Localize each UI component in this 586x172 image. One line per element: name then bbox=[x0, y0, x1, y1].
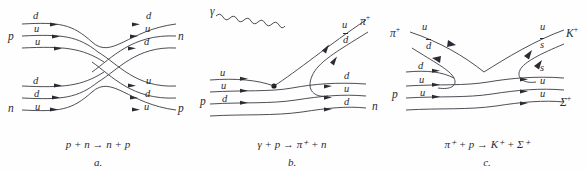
arrowhead-a-9 bbox=[54, 84, 62, 88]
particle-label-n-out-b: n bbox=[372, 101, 378, 113]
panel-a-letter: a. bbox=[0, 156, 196, 168]
particle-label-p-in-c: p bbox=[392, 89, 398, 101]
quark-line-a-top-3 bbox=[22, 47, 104, 62]
arrowhead-a-2 bbox=[52, 34, 60, 38]
particle-label-p-in: p bbox=[8, 31, 14, 43]
quark-label-a-br-3: u bbox=[144, 102, 149, 113]
sigma-charge-c: + bbox=[567, 94, 571, 103]
particle-label-p-in-b: p bbox=[200, 96, 206, 108]
quark-label-a-bl-1: d bbox=[33, 76, 38, 87]
arrowhead-b-2 bbox=[240, 89, 248, 93]
panel-b-caption: γ + p → π⁺ + n bbox=[196, 138, 388, 151]
quark-label-a-tl-3: u bbox=[35, 37, 40, 48]
quark-line-b-p-4 bbox=[210, 107, 366, 116]
k-charge-c: + bbox=[574, 25, 578, 34]
particle-label-gamma: γ bbox=[210, 6, 215, 18]
quark-label-c-tl-2: d bbox=[426, 39, 431, 51]
quark-line-a-out-5 bbox=[98, 52, 176, 86]
quark-label-c-br-2: u bbox=[540, 76, 545, 87]
quark-label-c-bl-3: u bbox=[420, 88, 425, 99]
particle-label-n-out: n bbox=[178, 31, 184, 43]
quark-label-c-tl-1: u bbox=[422, 22, 427, 33]
particle-label-sigma-out-c: Σ+ bbox=[560, 95, 571, 108]
pi-charge-c: + bbox=[396, 25, 400, 34]
panel-b: γ p n π+ u d u u d d u d γ + p → π⁺ + n … bbox=[196, 0, 388, 172]
quark-line-a-out-2 bbox=[92, 36, 176, 72]
quark-label-b-br-1: d bbox=[344, 71, 349, 82]
quark-label-b-br-3: d bbox=[344, 97, 349, 108]
panel-c-caption: π⁺ + p → K⁺ + Σ⁺ bbox=[388, 138, 586, 151]
quark-label-a-bl-2: d bbox=[34, 89, 39, 100]
quark-label-b-br-2: u bbox=[344, 84, 349, 95]
arrowhead-a-11 bbox=[130, 96, 138, 100]
arrowhead-a-5 bbox=[130, 34, 138, 38]
panel-b-letter: b. bbox=[196, 156, 388, 168]
arrowhead-a-3 bbox=[54, 46, 62, 50]
arrowhead-b-7 bbox=[322, 45, 329, 54]
panel-a-diagram bbox=[0, 0, 196, 134]
particle-label-k-out-c: K+ bbox=[566, 26, 578, 39]
arrowhead-c-4 bbox=[432, 83, 440, 87]
quark-label-b-tr-2: d bbox=[343, 33, 348, 45]
quark-label-a-br-1: u bbox=[146, 76, 151, 87]
quark-label-b-bl-2: u bbox=[221, 81, 226, 92]
arrowhead-a-7 bbox=[50, 107, 58, 111]
sigma-symbol-c: Σ bbox=[560, 96, 567, 108]
quark-label-b-bl-3: d bbox=[222, 94, 227, 105]
quark-label-b-bl-1: u bbox=[220, 68, 225, 79]
arrowhead-a-6 bbox=[128, 47, 136, 51]
quark-line-a-out-4 bbox=[92, 62, 176, 98]
panel-a: p n n p d u u d u d d d u u d u p + n → … bbox=[0, 0, 196, 172]
quark-label-a-tl-1: d bbox=[33, 11, 38, 22]
quark-flow-figure: p n n p d u u d u d d d u u d u p + n → … bbox=[0, 0, 586, 172]
quark-label-a-tr-2: u bbox=[145, 24, 150, 35]
photon-wavy-line bbox=[216, 14, 285, 28]
quark-label-a-tr-3: d bbox=[144, 37, 149, 48]
quark-label-c-bl-1: d bbox=[418, 61, 423, 72]
quark-label-c-br-3: u bbox=[540, 89, 545, 100]
quark-line-b-pi-dbar bbox=[310, 32, 368, 96]
arrowhead-c-1 bbox=[447, 40, 456, 47]
quark-label-a-tl-2: u bbox=[34, 24, 39, 35]
arrowhead-b-3 bbox=[240, 101, 248, 105]
quark-label-c-tr-1: u bbox=[540, 22, 545, 33]
arrowhead-c-2 bbox=[432, 56, 441, 63]
arrowhead-b-4 bbox=[324, 84, 332, 88]
arrowhead-a-1 bbox=[50, 23, 58, 27]
arrowhead-a-12 bbox=[128, 83, 136, 87]
panel-a-caption: p + n → n + p bbox=[0, 138, 196, 150]
quark-line-a-out-3 bbox=[98, 48, 176, 82]
particle-label-pi-in-c: π+ bbox=[390, 26, 400, 39]
quark-label-c-tr-2: s bbox=[540, 38, 544, 50]
quark-line-b-p-3 bbox=[210, 95, 366, 104]
arrowhead-c-5 bbox=[432, 95, 440, 99]
quark-line-b-p-2 bbox=[210, 83, 366, 92]
quark-label-a-tr-1: d bbox=[146, 11, 151, 22]
particle-label-pi-out-b: π+ bbox=[360, 14, 370, 27]
arrowhead-a-4 bbox=[132, 23, 140, 27]
quark-line-c-p-4 bbox=[406, 101, 564, 110]
arrowhead-a-10 bbox=[132, 107, 140, 111]
panel-c: π+ p K+ Σ+ u d u s d u u s u u π⁺ + p → … bbox=[388, 0, 586, 172]
arrowhead-b-8 bbox=[330, 57, 337, 66]
quark-label-c-br-1: s bbox=[540, 63, 544, 74]
arrowhead-a-8 bbox=[52, 96, 60, 100]
particle-label-n-in: n bbox=[8, 103, 14, 115]
k-symbol-c: K bbox=[566, 27, 574, 39]
quark-label-c-bl-2: u bbox=[419, 75, 424, 86]
quark-label-a-br-2: d bbox=[145, 89, 150, 100]
particle-label-p-out: p bbox=[178, 103, 184, 115]
quark-line-c-p-1 bbox=[406, 71, 454, 78]
quark-label-b-tr-1: u bbox=[342, 20, 347, 31]
panel-c-letter: c. bbox=[388, 156, 586, 168]
pi-charge-b: + bbox=[366, 13, 370, 22]
quark-label-a-bl-3: u bbox=[35, 102, 40, 113]
arrowhead-c-6 bbox=[524, 50, 532, 60]
quark-line-b-pi-u bbox=[274, 20, 366, 86]
